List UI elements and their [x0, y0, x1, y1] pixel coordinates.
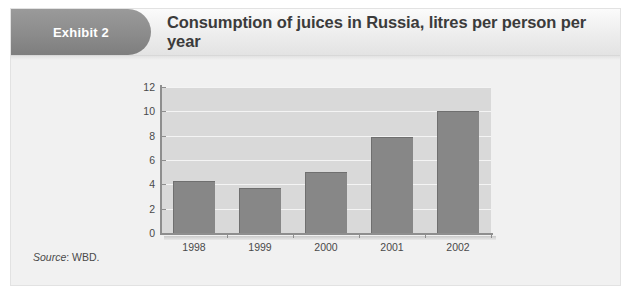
- y-tick: [160, 160, 166, 161]
- y-tick: [160, 111, 166, 112]
- y-tick-label: 12: [119, 81, 155, 93]
- y-tick-label: 2: [119, 203, 155, 215]
- x-tick: [359, 233, 360, 238]
- x-tick: [491, 233, 492, 238]
- y-tick-label: 6: [119, 154, 155, 166]
- y-tick: [160, 233, 166, 234]
- plot-area: [161, 87, 491, 233]
- bar-slot-2002: [425, 87, 491, 233]
- exhibit-card: Exhibit 2 Consumption of juices in Russi…: [10, 8, 621, 286]
- y-tick: [160, 87, 166, 88]
- bar-2002[interactable]: [437, 111, 479, 233]
- bar-slot-1998: [161, 87, 227, 233]
- y-axis-labels: 12 10 8 6 4 2 0: [115, 87, 155, 233]
- x-tick-label-1999: 1999: [230, 241, 290, 253]
- bar-slot-1999: [227, 87, 293, 233]
- y-tick: [160, 136, 166, 137]
- x-tick: [425, 233, 426, 238]
- x-tick-label-2001: 2001: [362, 241, 422, 253]
- y-tick-label: 0: [119, 227, 155, 239]
- source-value: : WBD.: [66, 251, 99, 263]
- bar-slot-2001: [359, 87, 425, 233]
- bar-2000[interactable]: [305, 172, 347, 233]
- bar-1998[interactable]: [173, 181, 215, 233]
- bar-chart: 12 10 8 6 4 2 0 1998 1999 200: [11, 61, 620, 251]
- x-tick-label-2002: 2002: [428, 241, 488, 253]
- header-shadow-divider: [11, 55, 620, 60]
- x-tick: [227, 233, 228, 238]
- plot-base-shadow: [164, 236, 496, 240]
- bar-series: [161, 87, 491, 233]
- x-tick-label-2000: 2000: [296, 241, 356, 253]
- exhibit-badge-label: Exhibit 2: [53, 25, 109, 40]
- x-tick: [293, 233, 294, 238]
- bar-slot-2000: [293, 87, 359, 233]
- bar-2001[interactable]: [371, 137, 413, 233]
- y-tick-label: 8: [119, 130, 155, 142]
- x-axis-line: [160, 233, 493, 235]
- exhibit-badge: Exhibit 2: [11, 9, 151, 55]
- exhibit-title: Consumption of juices in Russia, litres …: [167, 9, 610, 55]
- y-tick: [160, 184, 166, 185]
- y-tick: [160, 209, 166, 210]
- exhibit-header: Exhibit 2 Consumption of juices in Russi…: [11, 9, 620, 56]
- bar-1999[interactable]: [239, 188, 281, 233]
- x-tick-label-1998: 1998: [164, 241, 224, 253]
- y-tick-label: 4: [119, 178, 155, 190]
- source-note: Source: WBD.: [33, 251, 100, 263]
- y-tick-label: 10: [119, 105, 155, 117]
- source-label: Source: [33, 251, 66, 263]
